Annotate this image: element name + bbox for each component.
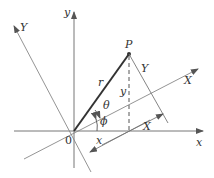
rotation-diagram: y Y P Y X r y θ ϕ X 0 x x [0,0,214,178]
y-component-label: y [119,85,127,98]
x-axis-label: x [196,136,203,149]
theta-label: θ [103,99,110,112]
Y-axis [14,26,91,172]
y-axis-label: y [63,6,71,19]
point-label: P [124,38,133,51]
X-axis-label: X [183,74,193,87]
phi-label: ϕ [100,115,108,128]
x-component-label: x [96,134,103,147]
Y-component-line [129,54,168,123]
Y-component-label: Y [141,62,150,75]
Y-axis-label: Y [20,21,29,34]
X-component-label: X [142,120,152,133]
radius-label: r [98,76,104,89]
origin-label: 0 [65,134,72,147]
X-axis [24,69,198,159]
